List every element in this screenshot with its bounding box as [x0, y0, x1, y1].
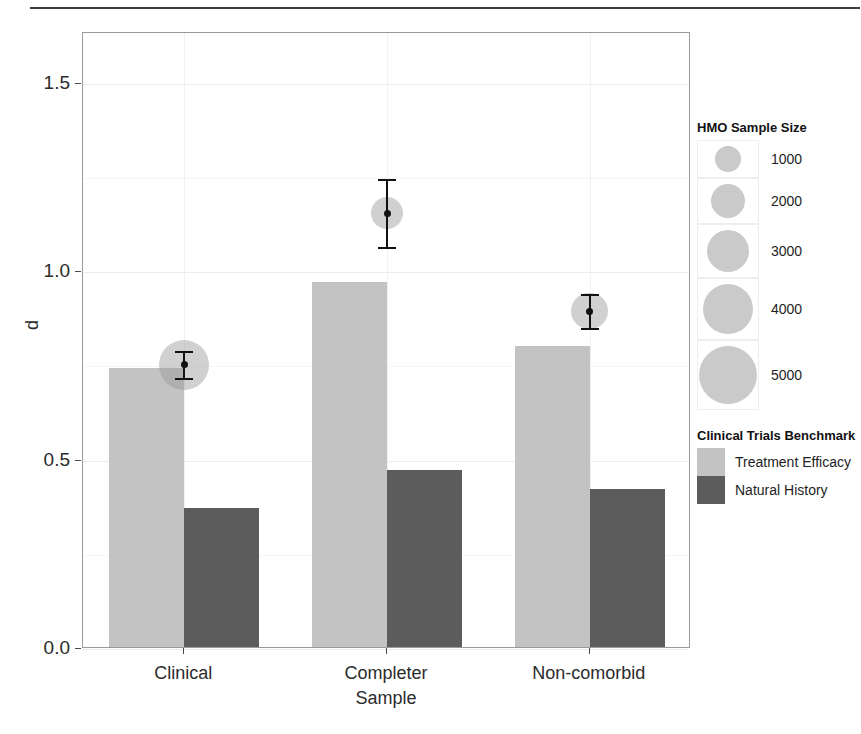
bar-treatment-efficacy-clinical	[109, 368, 184, 647]
color-legend-swatch	[697, 448, 725, 476]
x-tick-mark	[589, 648, 590, 654]
y-axis-title: d	[22, 320, 43, 330]
color-legend-list: Treatment EfficacyNatural History	[697, 448, 857, 504]
legend-area: HMO Sample Size 10002000300040005000 Cli…	[697, 120, 857, 504]
bar-natural-history-completer-sample	[387, 470, 462, 647]
bar-treatment-efficacy-completer-sample	[312, 282, 387, 647]
color-legend-item: Treatment Efficacy	[697, 448, 857, 476]
size-legend-bubble	[703, 284, 753, 334]
error-bar-cap-upper-non-comorbid	[581, 294, 599, 296]
color-legend-swatch	[697, 476, 725, 504]
size-legend-key	[697, 278, 759, 340]
error-bar-cap-lower-clinical	[175, 378, 193, 380]
x-tick-label: Completer Sample	[344, 661, 427, 711]
x-tick-mark	[183, 648, 184, 654]
size-legend-bubble	[711, 184, 745, 218]
x-tick-label: Clinical	[154, 661, 212, 686]
size-legend-label: 4000	[771, 301, 802, 317]
size-legend-bubble	[707, 230, 749, 272]
error-bar-cap-upper-clinical	[175, 351, 193, 353]
size-legend-item: 2000	[697, 178, 857, 224]
size-legend-key	[697, 224, 759, 278]
y-tick-label: 0.5	[44, 449, 70, 471]
bar-natural-history-clinical	[184, 508, 259, 647]
size-legend-label: 5000	[771, 367, 802, 383]
size-legend-label: 1000	[771, 151, 802, 167]
error-bar-cap-lower-non-comorbid	[581, 328, 599, 330]
size-legend-item: 3000	[697, 224, 857, 278]
size-legend-bubble	[715, 146, 741, 172]
size-legend-item: 1000	[697, 140, 857, 178]
bar-natural-history-non-comorbid	[590, 489, 665, 647]
size-legend-key	[697, 140, 759, 178]
size-legend-key	[697, 178, 759, 224]
grid-line-horizontal	[83, 84, 689, 85]
x-tick-mark	[386, 648, 387, 654]
size-legend-title: HMO Sample Size	[697, 120, 857, 136]
y-tick-mark	[75, 460, 81, 461]
color-legend-title: Clinical Trials Benchmark	[697, 428, 857, 444]
plot-inner	[83, 33, 689, 647]
size-legend-item: 5000	[697, 340, 857, 410]
top-horizontal-rule	[30, 7, 860, 9]
size-legend-item: 4000	[697, 278, 857, 340]
data-point-completer-sample	[384, 210, 391, 217]
size-legend-list: 10002000300040005000	[697, 140, 857, 410]
plot-panel	[82, 32, 690, 648]
y-tick-mark	[75, 648, 81, 649]
error-bar-cap-upper-completer-sample	[378, 179, 396, 181]
size-legend-label: 3000	[771, 243, 802, 259]
y-tick-label: 1.0	[44, 260, 70, 282]
data-point-non-comorbid	[586, 308, 593, 315]
color-legend-label: Natural History	[735, 482, 828, 498]
color-legend-item: Natural History	[697, 476, 857, 504]
error-bar-cap-lower-completer-sample	[378, 247, 396, 249]
y-tick-label: 0.0	[44, 637, 70, 659]
x-tick-label: Non-comorbid	[532, 661, 645, 686]
size-legend-label: 2000	[771, 193, 802, 209]
bar-treatment-efficacy-non-comorbid	[515, 346, 590, 647]
color-legend-label: Treatment Efficacy	[735, 454, 851, 470]
y-tick-label: 1.5	[44, 72, 70, 94]
y-tick-mark	[75, 83, 81, 84]
chart-figure: d 0.00.51.01.5 ClinicalCompleter SampleN…	[0, 0, 861, 734]
y-tick-mark	[75, 271, 81, 272]
grid-line-horizontal	[83, 272, 689, 273]
size-legend-bubble	[699, 346, 757, 404]
size-legend-key	[697, 340, 759, 410]
color-legend: Clinical Trials Benchmark Treatment Effi…	[697, 428, 857, 504]
